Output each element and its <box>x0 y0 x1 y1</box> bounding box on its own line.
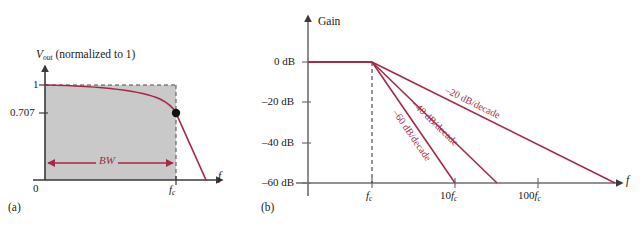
panel-b-xtick-label-fc: fc <box>366 190 372 201</box>
panel-a-origin-label: 0 <box>33 183 39 194</box>
xtick-fc-sub: c <box>172 188 175 197</box>
panel-b-ytick-label-minus20db: –20 dB <box>262 96 294 107</box>
xtick-b2-sub: c <box>538 194 541 203</box>
panel-a-xtick-label-fc: fc <box>169 184 175 195</box>
bandwidth-label: BW <box>96 155 118 166</box>
panel-a-y-axis-title: Vout (normalized to 1) <box>36 49 135 61</box>
panel-a-graphics <box>33 66 222 185</box>
xtick-b0-sub: c <box>369 194 372 203</box>
panel-a-tag: (a) <box>8 202 21 214</box>
panel-b-xtick-label-10fc: 10fc <box>440 190 457 201</box>
panel-b-ytick-label-minus40db: –40 dB <box>262 137 294 148</box>
y-axis-title-main: V <box>36 48 43 60</box>
panel-b-xtick-label-100fc: 100fc <box>518 190 541 201</box>
xtick-b2-prefix: 100 <box>518 189 535 201</box>
xtick-b1-prefix: 10 <box>440 189 451 201</box>
panel-b-ytick-label-0db: 0 dB <box>274 56 295 67</box>
panel-b-tag: (b) <box>261 202 274 214</box>
panel-b-y-axis-title: Gain <box>318 16 340 28</box>
panel-a-x-axis-label: f <box>218 171 221 183</box>
cutoff-point-marker <box>172 109 180 117</box>
figure-graphics <box>0 0 643 226</box>
figure-filter-response: Vout (normalized to 1) 1 0.707 0 fc f BW… <box>0 0 643 226</box>
panel-b-x-axis-label: f <box>626 175 629 187</box>
panel-b-ytick-label-minus60db: –60 dB <box>262 177 294 188</box>
y-axis-title-sub: out <box>43 53 53 62</box>
panel-b-graphics <box>296 16 622 196</box>
panel-a-ytick-label-0707: 0.707 <box>10 107 35 118</box>
y-axis-title-rest: (normalized to 1) <box>56 48 136 60</box>
xtick-b1-sub: c <box>454 194 457 203</box>
panel-a-ytick-label-1: 1 <box>33 79 39 90</box>
